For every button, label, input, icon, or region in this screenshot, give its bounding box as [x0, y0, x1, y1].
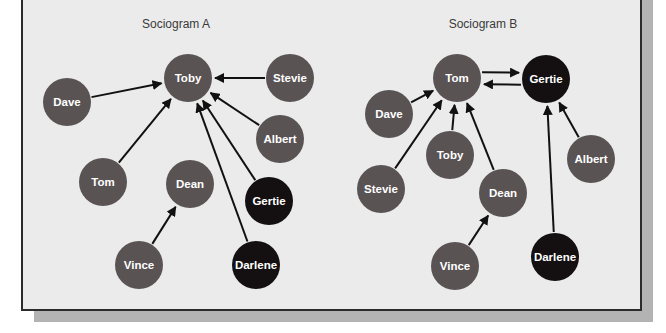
node-vince: Vince	[431, 242, 479, 290]
edge-dave-to-toby	[92, 83, 162, 97]
node-dave: Dave	[43, 78, 91, 126]
sociogram-b-title: Sociogram B	[449, 17, 518, 31]
node-label: Toby	[175, 72, 202, 84]
sociogram-a: Sociogram A TobyStevieDaveAlbertTomDeanG…	[43, 17, 314, 289]
edge-dave-to-tom	[411, 91, 433, 103]
node-stevie: Stevie	[357, 165, 405, 213]
node-dean: Dean	[166, 160, 214, 208]
node-label: Vince	[124, 259, 154, 271]
node-label: Darlene	[235, 259, 277, 271]
edge-darlene-to-gertie	[547, 106, 553, 232]
node-label: Stevie	[273, 72, 307, 84]
node-toby: Toby	[426, 131, 474, 179]
node-label: Tom	[445, 72, 468, 84]
node-label: Albert	[263, 133, 296, 145]
node-darlene: Darlene	[531, 233, 579, 281]
node-label: Albert	[574, 153, 607, 165]
node-label: Gertie	[252, 195, 285, 207]
node-label: Dean	[489, 187, 517, 199]
sociogram-a-title: Sociogram A	[142, 17, 210, 31]
edge-toby-to-tom	[452, 105, 454, 130]
node-gertie: Gertie	[245, 177, 293, 225]
node-dave: Dave	[365, 90, 413, 138]
node-label: Dave	[53, 96, 81, 108]
node-dean: Dean	[479, 169, 527, 217]
node-label: Tom	[91, 176, 114, 188]
edge-albert-to-gertie	[559, 103, 579, 138]
node-label: Gertie	[529, 73, 562, 85]
node-tom: Tom	[79, 158, 127, 206]
node-albert: Albert	[567, 135, 615, 183]
node-label: Dave	[375, 108, 403, 120]
edge-vince-to-dean	[152, 207, 175, 244]
sociogram-a-edges	[92, 78, 265, 244]
edge-albert-to-toby	[211, 93, 260, 125]
node-darlene: Darlene	[232, 241, 280, 289]
node-tom: Tom	[433, 54, 481, 102]
node-gertie: Gertie	[522, 55, 570, 103]
node-albert: Albert	[256, 115, 304, 163]
edge-vince-to-dean	[469, 216, 488, 246]
sociogram-b: Sociogram B TomGertieDaveTobyAlbertStevi…	[357, 17, 615, 290]
node-label: Stevie	[364, 183, 398, 195]
node-vince: Vince	[115, 241, 163, 289]
sociogram-a-nodes: TobyStevieDaveAlbertTomDeanGertieVinceDa…	[43, 54, 314, 289]
node-stevie: Stevie	[266, 54, 314, 102]
sociogram-canvas: Sociogram A TobyStevieDaveAlbertTomDeanG…	[0, 0, 666, 333]
node-label: Toby	[437, 149, 464, 161]
sociogram-b-nodes: TomGertieDaveTobyAlbertStevieDeanVinceDa…	[357, 54, 615, 290]
edge-tom-to-toby	[119, 99, 171, 163]
node-label: Dean	[176, 178, 204, 190]
node-label: Darlene	[534, 251, 576, 263]
node-toby: Toby	[164, 54, 212, 102]
node-label: Vince	[440, 260, 470, 272]
